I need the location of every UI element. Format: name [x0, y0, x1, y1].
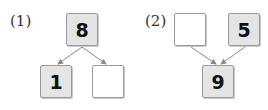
bottom-left-number-box: 1 [40, 65, 72, 98]
top-right-number-box: 5 [228, 13, 260, 46]
problem-2-label: (2) [145, 12, 166, 30]
bottom-number-box: 9 [202, 65, 234, 98]
problem-1-label: (1) [10, 12, 31, 30]
answer-box[interactable] [174, 13, 206, 46]
top-number-box: 8 [66, 13, 98, 46]
answer-box[interactable] [92, 65, 124, 98]
